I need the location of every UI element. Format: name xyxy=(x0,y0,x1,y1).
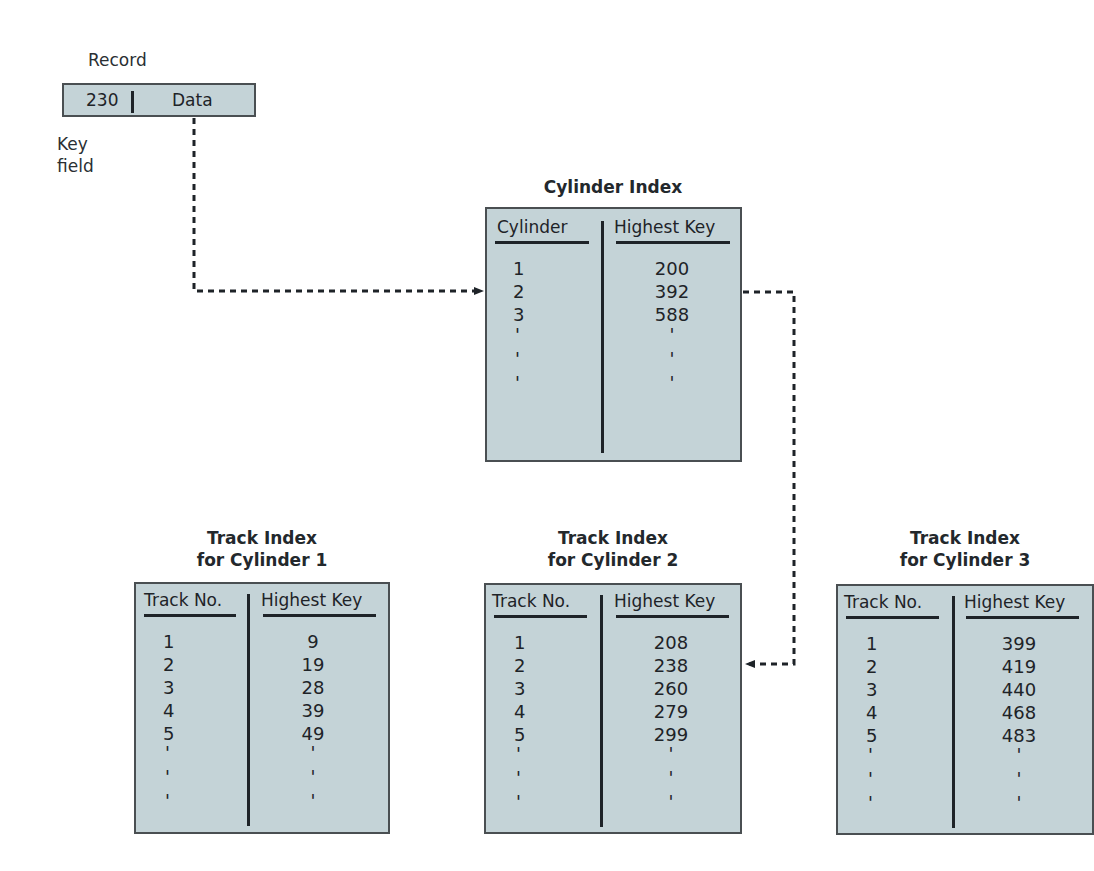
header-underline xyxy=(616,615,729,618)
record-separator xyxy=(131,91,134,113)
ellipsis-mark: ' xyxy=(637,347,707,371)
track-index-col2-header: Highest Key xyxy=(614,591,715,611)
column-divider xyxy=(601,221,604,453)
ellipsis-mark: ' xyxy=(165,765,170,789)
ellipsis-mark: ' xyxy=(278,741,348,765)
ellipsis-mark: ' xyxy=(637,371,707,395)
ellipsis-mark: ' xyxy=(984,743,1054,767)
cell: 392 xyxy=(637,280,707,304)
ellipsis-mark: ' xyxy=(984,767,1054,791)
cell: 19 xyxy=(278,653,348,677)
ellipsis-mark: ' xyxy=(984,791,1054,815)
track-index-1-table: Track No. Highest Key 1 9 2 19 3 28 4 39… xyxy=(134,582,390,834)
column-divider xyxy=(952,596,955,828)
ellipsis-mark: ' xyxy=(165,741,170,765)
cell: 399 xyxy=(984,632,1054,656)
ellipsis-mark: ' xyxy=(637,323,707,347)
record-key-value: 230 xyxy=(86,90,118,110)
ellipsis-mark: ' xyxy=(868,767,873,791)
column-divider xyxy=(600,595,603,827)
header-underline xyxy=(495,241,589,244)
cell: 3 xyxy=(514,677,525,701)
ellipsis-mark: ' xyxy=(165,789,170,813)
cell: 238 xyxy=(636,654,706,678)
key-field-label: Key field xyxy=(57,133,94,177)
ellipsis-mark: ' xyxy=(278,765,348,789)
track-index-col1-header: Track No. xyxy=(844,592,922,612)
cell: 4 xyxy=(514,700,525,724)
cell: 4 xyxy=(866,701,877,725)
cell: 3 xyxy=(163,676,174,700)
cell: 1 xyxy=(163,630,174,654)
cylinder-index-col2-header: Highest Key xyxy=(614,217,715,237)
header-underline xyxy=(846,616,939,619)
cell: 1 xyxy=(514,631,525,655)
track-index-col2-header: Highest Key xyxy=(261,590,362,610)
ellipsis-mark: ' xyxy=(868,743,873,767)
header-underline xyxy=(263,614,376,617)
cell: 468 xyxy=(984,701,1054,725)
ellipsis-mark: ' xyxy=(636,742,706,766)
cell: 2 xyxy=(513,280,524,304)
ellipsis-mark: ' xyxy=(516,790,521,814)
track-index-1-title: Track Index for Cylinder 1 xyxy=(134,527,390,571)
ellipsis-mark: ' xyxy=(278,789,348,813)
header-underline xyxy=(144,614,236,617)
header-underline xyxy=(966,616,1079,619)
track-index-2-table: Track No. Highest Key 1 208 2 238 3 260 … xyxy=(484,583,742,834)
cylinder-index-table: Cylinder Highest Key 1 200 2 392 3 588 '… xyxy=(485,207,742,462)
track-index-col1-header: Track No. xyxy=(144,590,222,610)
cell: 28 xyxy=(278,676,348,700)
track-index-col2-header: Highest Key xyxy=(964,592,1065,612)
ellipsis-mark: ' xyxy=(516,742,521,766)
cell: 260 xyxy=(636,677,706,701)
cell: 4 xyxy=(163,699,174,723)
track-index-2-title: Track Index for Cylinder 2 xyxy=(484,527,742,571)
ellipsis-mark: ' xyxy=(515,371,520,395)
ellipsis-mark: ' xyxy=(636,790,706,814)
cell: 1 xyxy=(866,632,877,656)
ellipsis-mark: ' xyxy=(515,323,520,347)
record-box: 230 Data xyxy=(62,83,256,117)
record-to-cylinder-index-arrow xyxy=(194,118,483,291)
ellipsis-mark: ' xyxy=(868,791,873,815)
ellipsis-mark: ' xyxy=(636,766,706,790)
track-index-col1-header: Track No. xyxy=(492,591,570,611)
cell: 419 xyxy=(984,655,1054,679)
cell: 2 xyxy=(163,653,174,677)
cell: 39 xyxy=(278,699,348,723)
cylinder-index-title: Cylinder Index xyxy=(485,176,741,198)
header-underline xyxy=(494,615,587,618)
column-divider xyxy=(247,594,250,826)
track-index-3-table: Track No. Highest Key 1 399 2 419 3 440 … xyxy=(836,584,1094,835)
record-title: Record xyxy=(88,50,147,70)
cylinder-index-col1-header: Cylinder xyxy=(497,217,567,237)
cell: 208 xyxy=(636,631,706,655)
cell: 440 xyxy=(984,678,1054,702)
cell: 3 xyxy=(866,678,877,702)
ellipsis-mark: ' xyxy=(515,347,520,371)
cell: 1 xyxy=(513,257,524,281)
header-underline xyxy=(616,241,730,244)
cell: 2 xyxy=(866,655,877,679)
cell: 200 xyxy=(637,257,707,281)
cell: 279 xyxy=(636,700,706,724)
cell: 2 xyxy=(514,654,525,678)
cylinder-index-to-track-index-2-arrow xyxy=(743,292,794,664)
cell: 9 xyxy=(278,630,348,654)
record-data-label: Data xyxy=(172,90,213,110)
track-index-3-title: Track Index for Cylinder 3 xyxy=(836,527,1094,571)
ellipsis-mark: ' xyxy=(516,766,521,790)
